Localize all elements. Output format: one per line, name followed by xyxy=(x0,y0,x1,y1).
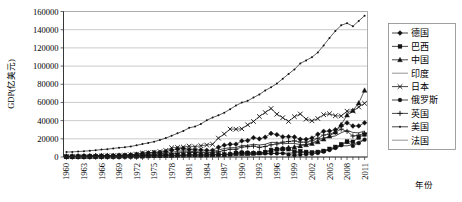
data-point-marker xyxy=(257,136,262,141)
y-tick-label: 0 xyxy=(54,152,58,162)
y-tick-label: 160000 xyxy=(33,7,59,17)
x-tick-label: 2002 xyxy=(307,163,317,180)
data-point-marker xyxy=(288,73,290,75)
data-point-marker xyxy=(357,141,361,145)
data-point-marker xyxy=(257,114,262,119)
data-point-marker xyxy=(363,138,367,142)
data-point-marker xyxy=(194,126,196,128)
x-tick-label: 1984 xyxy=(202,162,212,180)
data-point-marker xyxy=(257,145,262,150)
y-tick-label: 100000 xyxy=(33,61,59,71)
y-tick-label: 140000 xyxy=(33,25,59,35)
data-point-marker xyxy=(228,142,233,147)
data-point-marker xyxy=(358,20,360,22)
data-point-marker xyxy=(321,133,326,138)
data-point-marker xyxy=(317,51,319,53)
legend-label: 印度 xyxy=(411,68,429,79)
y-axis-title: GDP(亿美元) xyxy=(6,59,16,109)
data-point-marker xyxy=(286,119,291,124)
data-point-marker xyxy=(351,140,355,144)
data-point-marker xyxy=(182,130,184,132)
legend-label: 法国 xyxy=(411,135,429,146)
data-point-marker xyxy=(165,137,167,139)
data-point-marker xyxy=(311,56,313,58)
data-point-marker xyxy=(275,112,280,117)
data-point-marker xyxy=(398,45,402,49)
legend-label: 美国 xyxy=(411,121,429,132)
data-point-marker xyxy=(275,152,279,156)
data-point-marker xyxy=(286,134,291,139)
data-point-marker xyxy=(329,37,331,39)
x-tick-label: 1993 xyxy=(254,163,264,180)
series-0 xyxy=(64,120,367,158)
data-point-marker xyxy=(223,112,225,114)
data-point-marker xyxy=(101,149,103,151)
data-point-marker xyxy=(269,131,274,136)
data-point-marker xyxy=(234,142,239,147)
x-tick-label: 1987 xyxy=(219,163,229,180)
data-point-marker xyxy=(399,126,401,128)
x-tick-label: 2005 xyxy=(325,163,335,180)
data-point-marker xyxy=(258,93,260,95)
x-tick-label: 1972 xyxy=(132,163,142,180)
data-point-marker xyxy=(147,142,149,144)
legend-label: 英国 xyxy=(411,108,429,119)
data-point-marker xyxy=(323,44,325,46)
data-point-marker xyxy=(350,124,355,129)
data-point-marker xyxy=(310,152,314,156)
data-point-marker xyxy=(112,147,114,149)
series-2 xyxy=(64,88,367,159)
data-point-marker xyxy=(71,151,73,153)
data-point-marker xyxy=(327,132,332,137)
data-point-marker xyxy=(305,59,307,61)
data-point-marker xyxy=(345,120,350,125)
y-tick-label: 20000 xyxy=(37,134,58,144)
data-point-marker xyxy=(264,90,266,92)
data-point-marker xyxy=(188,127,190,129)
data-point-marker xyxy=(235,105,237,107)
data-point-marker xyxy=(362,88,367,93)
data-point-marker xyxy=(356,105,361,110)
data-point-marker xyxy=(83,150,85,152)
data-point-marker xyxy=(304,152,308,156)
data-point-marker xyxy=(328,148,332,152)
data-point-marker xyxy=(276,83,278,85)
gridlines-group xyxy=(64,30,368,139)
data-point-marker xyxy=(316,116,321,121)
data-point-marker xyxy=(216,145,221,150)
x-tick-label: 1981 xyxy=(184,163,194,180)
data-point-marker xyxy=(351,144,355,148)
data-point-marker xyxy=(229,108,231,110)
x-tick-label: 1978 xyxy=(167,163,177,180)
data-point-marker xyxy=(362,120,367,125)
data-point-marker xyxy=(316,151,320,155)
data-point-marker xyxy=(346,22,348,24)
x-tick-label: 2011 xyxy=(360,163,370,180)
x-tick-label: 1960 xyxy=(61,163,71,180)
data-point-marker xyxy=(239,139,244,144)
data-point-marker xyxy=(281,151,285,155)
data-point-marker xyxy=(299,62,301,64)
data-point-marker xyxy=(345,140,349,144)
data-point-marker xyxy=(280,115,285,120)
data-point-marker xyxy=(356,123,361,128)
y-axis-ticks: 0200004000060000800001000001200001400001… xyxy=(33,7,64,163)
data-point-marker xyxy=(206,119,208,121)
data-point-marker xyxy=(251,119,256,124)
legend: 德国巴西中国印度日本俄罗斯英国美国法国 xyxy=(389,24,456,150)
y-tick-label: 120000 xyxy=(33,43,59,53)
data-point-marker xyxy=(222,132,227,137)
data-point-marker xyxy=(124,146,126,148)
legend-label: 俄罗斯 xyxy=(411,94,438,105)
data-point-marker xyxy=(398,98,402,102)
data-point-marker xyxy=(177,132,179,134)
data-point-marker xyxy=(257,151,261,155)
data-point-marker xyxy=(287,153,291,157)
x-tick-label: 1996 xyxy=(272,163,282,180)
legend-label: 巴西 xyxy=(411,42,429,52)
data-point-marker xyxy=(274,132,279,137)
data-point-marker xyxy=(245,123,250,128)
data-point-marker xyxy=(364,15,366,17)
data-point-marker xyxy=(263,110,268,115)
data-point-marker xyxy=(241,102,243,104)
